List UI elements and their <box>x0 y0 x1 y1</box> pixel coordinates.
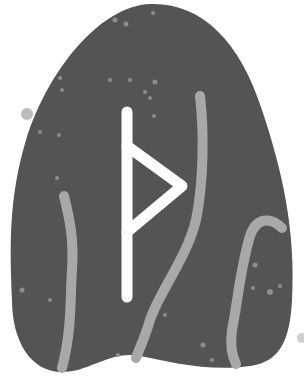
rune-stone-illustration <box>0 0 304 386</box>
stray-speck <box>21 108 33 120</box>
stray-speck <box>297 333 304 343</box>
